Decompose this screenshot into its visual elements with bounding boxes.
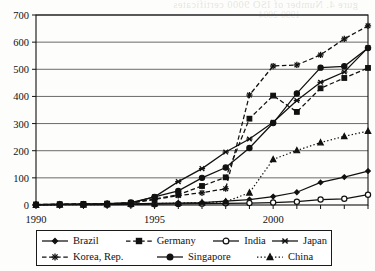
data-point [270,63,276,69]
data-point [342,133,347,138]
legend-symbol-singapore [156,251,184,263]
data-point [200,184,205,189]
data-point [270,157,275,162]
legend-item-china[interactable]: China [256,251,313,263]
series-germany [34,66,371,207]
line-chart: 0100200300400500600700199019952000 [0,0,375,225]
data-point [318,180,323,185]
legend-label-japan: Japan [299,236,327,247]
data-point [223,186,229,192]
data-point [317,80,323,85]
data-point [223,199,228,204]
data-point [152,194,157,199]
legend-marker [52,254,59,261]
data-point [294,62,300,68]
data-point [223,175,228,180]
data-point [365,46,370,51]
data-point [294,91,299,96]
legend-marker [167,254,173,260]
data-point [295,190,300,195]
y-axis-tick-label: 300 [13,119,29,130]
legend-symbol-germany [125,235,153,247]
data-point [247,201,252,206]
data-point [199,190,205,196]
data-point [271,93,276,98]
data-point [341,70,347,75]
data-point [271,194,276,199]
data-point [318,65,323,70]
legend-row: Brazil Germany India Japan [41,233,327,249]
legend-marker [282,238,289,243]
chart-screenshot: gure 4. Number of ISO 9000 certificates … [0,0,375,271]
legend-label-india: India [240,236,266,247]
legend-symbol-brazil [41,235,69,247]
y-axis-tick-label: 700 [13,10,29,21]
y-axis-tick-label: 600 [13,37,29,48]
data-point [342,175,347,180]
data-point [294,199,299,204]
data-point [318,197,323,202]
data-point [318,86,323,91]
legend-marker [267,254,273,260]
y-axis-tick-label: 100 [13,173,29,184]
data-point [318,140,323,145]
legend-symbol-china [256,251,284,263]
data-point [365,23,371,29]
data-point [365,192,370,197]
legend-item-singapore[interactable]: Singapore [156,251,256,263]
legend-item-germany[interactable]: Germany [125,235,212,247]
data-point [341,36,347,42]
data-point [247,116,252,121]
legend-marker [223,238,229,244]
legend-item-brazil[interactable]: Brazil [41,235,125,247]
y-axis-tick-label: 500 [13,64,29,75]
data-point [294,148,299,153]
data-point [342,76,347,81]
data-point [342,64,347,69]
data-point [176,200,181,205]
legend-symbol-japan [271,235,299,247]
legend-label-germany: Germany [153,236,196,247]
legend-item-japan[interactable]: Japan [271,235,327,247]
chart-legend: Brazil Germany India Japan Korea, Rep. [36,230,332,266]
data-point [366,66,371,71]
data-point [295,110,300,115]
legend-item-korea[interactable]: Korea, Rep. [41,251,156,263]
legend-label-brazil: Brazil [69,236,99,247]
y-axis-tick-label: 0 [24,200,29,211]
data-point [366,169,371,174]
data-point [246,92,252,98]
x-axis-tick-label: 1990 [26,214,47,225]
legend-label-korea: Korea, Rep. [69,252,123,263]
data-point [199,200,204,205]
x-axis-tick-label: 2000 [263,214,284,225]
data-point [199,166,205,171]
data-point [247,190,252,195]
legend-symbol-korea [41,251,69,263]
legend-symbol-india [212,235,240,247]
y-axis-tick-label: 400 [13,91,29,102]
legend-marker [52,238,57,243]
data-point [247,145,252,150]
x-axis-tick-label: 1995 [144,214,165,225]
legend-row: Korea, Rep. Singapore China [41,249,327,265]
data-point [199,175,204,180]
data-point [246,137,252,142]
data-point [271,200,276,205]
y-axis-tick-label: 200 [13,146,29,157]
legend-item-india[interactable]: India [212,235,271,247]
data-point [271,120,276,125]
data-point [317,52,323,58]
data-point [175,179,181,184]
legend-label-singapore: Singapore [184,252,231,263]
data-point [342,196,347,201]
series-line [36,48,368,205]
legend-marker [136,238,141,243]
data-point [223,165,228,170]
chart-canvas: 0100200300400500600700199019952000 [0,0,375,225]
legend-label-china: China [284,252,313,263]
data-point [176,188,181,193]
data-point [365,128,370,133]
data-point [294,98,300,103]
